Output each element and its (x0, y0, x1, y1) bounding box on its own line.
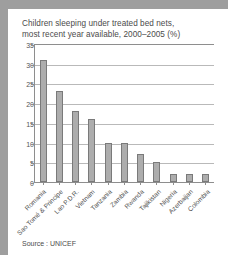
bar-slot (68, 45, 84, 182)
bar-slot (100, 45, 116, 182)
chart-title-line-2: most recent year available, 2000–2005 (%… (22, 30, 222, 41)
x-tick-mark (189, 182, 190, 185)
x-tick-mark (59, 182, 60, 185)
bar-tajikistan (153, 162, 160, 182)
bar-slot (84, 45, 100, 182)
x-axis-labels: RomaniaSao Tomé & PrincipeLao P.D.R.Viet… (34, 186, 214, 236)
x-tick-mark (156, 182, 157, 185)
bar-vietnam (88, 119, 95, 182)
x-tick-mark (75, 182, 76, 185)
x-tick-mark (140, 182, 141, 185)
x-tick-mark (108, 182, 109, 185)
decorative-top-band (0, 0, 228, 9)
bar-lao-p-d-r (72, 111, 79, 182)
bar-rwanda (137, 154, 144, 182)
bar-slot (149, 45, 165, 182)
bar-slot (165, 45, 181, 182)
bar-tanzania (105, 143, 112, 182)
chart-title: Children sleeping under treated bed nets… (22, 19, 222, 40)
chart-title-line-1: Children sleeping under treated bed nets… (22, 19, 222, 30)
figure-panel: Children sleeping under treated bed nets… (0, 0, 228, 255)
x-tick-mark (124, 182, 125, 185)
x-tick-mark (173, 182, 174, 185)
x-tick-mark (43, 182, 44, 185)
bar-zambia (121, 143, 128, 182)
bar-slot (198, 45, 214, 182)
bar-slot (35, 45, 51, 182)
y-tick-mark-0 (31, 183, 34, 184)
bar-slot (133, 45, 149, 182)
bar-series (35, 45, 214, 182)
bar-romania (40, 60, 47, 182)
plot-area (34, 44, 214, 183)
bar-slot (51, 45, 67, 182)
bar-colombia (202, 174, 209, 182)
bar-nigeria (170, 174, 177, 182)
x-tick-mark (91, 182, 92, 185)
x-tick-mark (205, 182, 206, 185)
bar-azerbaijan (186, 174, 193, 182)
bar-sao-tom-principe (56, 91, 63, 182)
bar-slot (181, 45, 197, 182)
y-axis: 05101520253035 (4, 44, 34, 184)
bar-slot (116, 45, 132, 182)
